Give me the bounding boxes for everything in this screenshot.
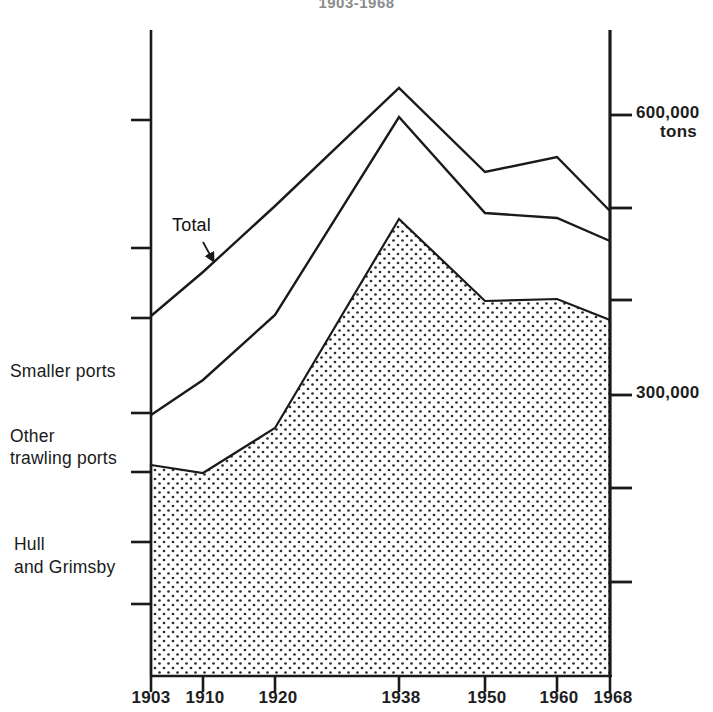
x-tick-label-1910: 1910 — [185, 688, 224, 708]
axis-right-ticks — [610, 115, 632, 582]
x-tick-label-1938: 1938 — [381, 688, 420, 708]
series-label-hull-and-grimsby-line2: and Grimsby — [14, 557, 115, 578]
series-label-other-trawling-ports-line1: Other — [10, 426, 55, 447]
series-label-smaller-ports: Smaller ports — [10, 361, 116, 382]
annotation-total-label: Total — [172, 215, 211, 236]
y-axis-unit-label: tons — [660, 122, 697, 142]
series-label-hull-and-grimsby-line1: Hull — [14, 534, 45, 555]
y-tick-label-600000: 600,000 — [636, 103, 700, 123]
x-tick-label-1950: 1950 — [467, 688, 506, 708]
y-tick-label-300000: 300,000 — [636, 383, 700, 403]
x-tick-label-1903: 1903 — [131, 688, 170, 708]
series-label-other-trawling-ports-line2: trawling ports — [10, 448, 117, 469]
chart-root: 1903-1968 — [0, 0, 713, 712]
total-annotation-arrow — [203, 242, 214, 262]
axis-left-ticks — [131, 120, 151, 604]
chart-canvas — [0, 0, 713, 712]
x-tick-label-1968: 1968 — [593, 688, 632, 708]
x-tick-label-1920: 1920 — [258, 688, 297, 708]
x-tick-label-1960: 1960 — [539, 688, 578, 708]
area-hull-and-grimsby — [151, 219, 610, 676]
